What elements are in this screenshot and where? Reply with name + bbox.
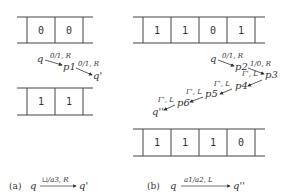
state-p1: p1	[63, 61, 76, 72]
transition-label: 0/1, R	[222, 52, 244, 60]
tape-cell: 1	[154, 25, 160, 36]
arrow-icon	[76, 68, 92, 75]
tape-cell: 0	[38, 25, 44, 36]
tape-cell: 0	[66, 25, 72, 36]
state-q: q	[37, 53, 43, 64]
state-p5: p5	[205, 88, 218, 99]
tape-cell: 1	[210, 137, 216, 148]
transition-label: Γ', L	[157, 96, 174, 104]
caption-from: q	[170, 180, 176, 191]
arrow-icon	[220, 89, 232, 94]
state-p3: p3	[265, 69, 278, 80]
arrow-icon	[248, 80, 262, 86]
arrow-icon	[164, 105, 175, 110]
panel-b: 1 1 0 1 q 0/1, R p2 1/0, R p3 Γ', L p4 Γ…	[133, 17, 278, 191]
state-q-double-prime: q''	[152, 106, 164, 117]
state-p4: p4	[235, 80, 248, 91]
transition-label: 1/0, R	[250, 60, 272, 68]
tape-b-before	[133, 17, 265, 43]
transition-label: 0/1, R	[50, 52, 72, 60]
arrow-icon	[45, 60, 62, 65]
transition-label: Γ', L	[213, 80, 230, 88]
tape-b-after	[133, 129, 265, 156]
caption-to: q'	[79, 180, 88, 191]
caption-tag: (b)	[147, 181, 160, 191]
tape-cell: 0	[238, 137, 244, 148]
turing-machine-figure: 0 0 q 0/1, R p1 0/1, R q' 1 1 (a) q ⊔/a3…	[0, 0, 292, 195]
caption-to: q''	[233, 180, 245, 191]
panel-a: 0 0 q 0/1, R p1 0/1, R q' 1 1 (a) q ⊔/a3…	[9, 17, 102, 191]
arrow-icon	[190, 97, 203, 102]
tape-cell: 1	[182, 137, 188, 148]
transition-label: Γ', L	[185, 88, 202, 96]
tape-cell: 1	[154, 137, 160, 148]
tape-cell: 0	[210, 25, 216, 36]
caption-from: q	[30, 180, 36, 191]
tape-a-after	[17, 88, 93, 115]
state-q: q	[210, 53, 216, 64]
caption-label: ⊔/a3, R	[42, 176, 69, 184]
state-q-prime: q'	[93, 70, 102, 81]
tape-a-before	[17, 17, 93, 43]
caption-tag: (a)	[9, 181, 21, 191]
tape-cell: 1	[238, 25, 244, 36]
tape-cell: 1	[182, 25, 188, 36]
arrow-icon	[218, 60, 234, 66]
tape-cell: 1	[66, 96, 72, 107]
tape-cell: 1	[38, 96, 44, 107]
state-p6: p6	[177, 97, 190, 108]
caption-label: a1/a2, L	[184, 176, 213, 184]
transition-label: Γ', L	[241, 70, 258, 78]
transition-label: 0/1, R	[78, 60, 100, 68]
